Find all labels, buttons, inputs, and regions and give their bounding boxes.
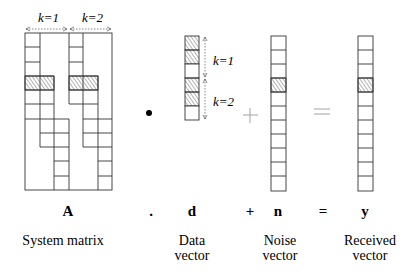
symbol-d: d [177, 203, 207, 220]
symbol-plus: + [235, 203, 265, 220]
system-matrix [25, 27, 112, 190]
matrix-block-k1 [25, 33, 69, 190]
caption-received-vector: Received vector [320, 233, 416, 263]
matrix-block-label-k2: k=2 [82, 10, 103, 26]
caption-data-line1: Data [142, 233, 242, 248]
matrix-outer-frame [25, 33, 112, 190]
symbol-n: n [263, 203, 293, 220]
hatched-cell [69, 76, 98, 90]
symbol-dot: . [136, 203, 166, 220]
received-vector [358, 36, 373, 191]
caption-data-vector: Data vector [142, 233, 242, 263]
equals-operator-icon [314, 109, 330, 114]
symbol-A: A [53, 203, 83, 220]
dot-operator-icon [146, 110, 152, 116]
matrix-block-label-k1: k=1 [38, 10, 59, 26]
symbol-y: y [350, 203, 380, 220]
data-group-label-k1: k=1 [213, 53, 234, 69]
data-vector [185, 36, 207, 120]
symbol-equals: = [308, 203, 338, 220]
caption-system-matrix: System matrix [13, 233, 113, 248]
data-group-label-k2: k=2 [213, 94, 234, 110]
block-width-arrows [26, 27, 111, 31]
caption-data-line2: vector [142, 248, 242, 263]
caption-noise-line1: Noise [230, 233, 330, 248]
plus-operator-icon [243, 108, 258, 123]
caption-received-line1: Received [320, 233, 416, 248]
caption-noise-line2: vector [230, 248, 330, 263]
noise-vector [271, 36, 286, 191]
caption-system-matrix-text: System matrix [22, 233, 103, 248]
caption-received-line2: vector [320, 248, 416, 263]
group-arrows [203, 37, 207, 119]
caption-noise-vector: Noise vector [230, 233, 330, 263]
hatched-cell [25, 76, 54, 90]
matrix-block-k2 [69, 33, 112, 190]
